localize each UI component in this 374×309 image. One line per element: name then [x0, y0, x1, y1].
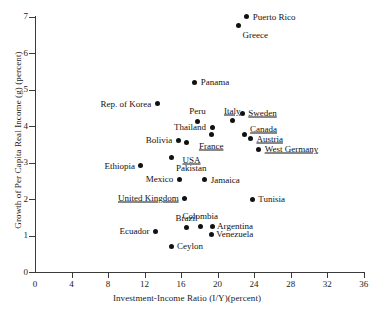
- y-tick-mark: [29, 163, 35, 164]
- y-tick-mark: [29, 199, 35, 200]
- data-point[interactable]: [256, 147, 261, 152]
- data-point-label: Italy: [224, 106, 241, 115]
- data-point[interactable]: [184, 225, 189, 230]
- data-point-label: Rep. of Korea: [101, 99, 152, 108]
- data-point-label: Venezuela: [216, 230, 253, 239]
- data-point-label: Tunisia: [258, 195, 285, 204]
- y-tick-mark: [29, 53, 35, 54]
- data-point[interactable]: [153, 229, 158, 234]
- data-point-label: Ecuador: [120, 227, 150, 236]
- x-tick-label: 12: [135, 280, 155, 289]
- data-point-label: Pakistan: [176, 163, 207, 172]
- data-point[interactable]: [177, 177, 182, 182]
- data-point-label: Ethiopia: [104, 161, 135, 170]
- x-tick-label: 24: [244, 280, 264, 289]
- x-tick-label: 16: [171, 280, 191, 289]
- data-point[interactable]: [210, 125, 215, 130]
- y-tick-mark: [29, 126, 35, 127]
- x-tick-label: 4: [62, 280, 82, 289]
- data-point[interactable]: [230, 118, 235, 123]
- x-tick-mark: [291, 272, 292, 278]
- data-point-label: Mexico: [146, 175, 174, 184]
- x-tick-label: 0: [25, 280, 45, 289]
- y-axis-line: [35, 16, 36, 273]
- data-point-label: Thailand: [174, 123, 206, 132]
- x-tick-mark: [218, 272, 219, 278]
- data-point-label: United Kingdom: [118, 194, 179, 203]
- data-point[interactable]: [169, 155, 174, 160]
- data-point[interactable]: [242, 132, 247, 137]
- data-point-label: Sweden: [248, 109, 277, 118]
- data-point[interactable]: [250, 197, 255, 202]
- x-tick-label: 20: [208, 280, 228, 289]
- x-tick-label: 32: [317, 280, 337, 289]
- x-tick-mark: [327, 272, 328, 278]
- x-tick-mark: [364, 272, 365, 278]
- x-tick-mark: [181, 272, 182, 278]
- data-point[interactable]: [169, 244, 174, 249]
- x-tick-mark: [254, 272, 255, 278]
- data-point-label: Greece: [243, 30, 268, 39]
- data-point[interactable]: [182, 196, 187, 201]
- data-point[interactable]: [184, 140, 189, 145]
- data-point[interactable]: [244, 14, 249, 19]
- data-point-label: West Germany: [265, 145, 319, 154]
- x-tick-mark: [108, 272, 109, 278]
- data-point[interactable]: [210, 224, 215, 229]
- data-point-label: Brazil: [176, 213, 198, 222]
- data-point-label: Panama: [201, 78, 230, 87]
- y-tick-mark: [29, 90, 35, 91]
- y-axis-title: Growth of Per Capita Real Income (g) (pe…: [13, 10, 23, 270]
- x-axis-line: [35, 272, 365, 273]
- data-point[interactable]: [192, 80, 197, 85]
- x-tick-mark: [72, 272, 73, 278]
- data-point-label: Puerto Rico: [253, 12, 296, 21]
- data-point-label: France: [199, 142, 224, 151]
- data-point[interactable]: [236, 23, 241, 28]
- x-tick-label: 36: [354, 280, 374, 289]
- x-tick-label: 8: [98, 280, 118, 289]
- data-point[interactable]: [176, 138, 181, 143]
- x-tick-label: 28: [281, 280, 301, 289]
- y-tick-mark: [29, 272, 35, 273]
- data-point[interactable]: [209, 232, 214, 237]
- data-point-label: Jamaica: [211, 175, 240, 184]
- data-point[interactable]: [202, 177, 207, 182]
- data-point-label: Austria: [256, 134, 283, 143]
- data-point[interactable]: [198, 224, 203, 229]
- data-point[interactable]: [248, 136, 253, 141]
- data-point[interactable]: [138, 163, 143, 168]
- scatter-plot: 01234567 04812162024283236 Puerto RicoGr…: [0, 0, 374, 309]
- data-point[interactable]: [155, 101, 160, 106]
- data-point-label: Peru: [189, 107, 206, 116]
- data-point-label: Bolivia: [146, 136, 173, 145]
- x-tick-mark: [145, 272, 146, 278]
- y-tick-mark: [29, 236, 35, 237]
- y-tick-mark: [29, 17, 35, 18]
- data-point-label: Canada: [250, 124, 277, 133]
- data-point[interactable]: [209, 132, 214, 137]
- x-axis-title: Investment-Income Ratio (I/Y)(percent): [0, 293, 374, 303]
- data-point-label: Ceylon: [177, 242, 203, 251]
